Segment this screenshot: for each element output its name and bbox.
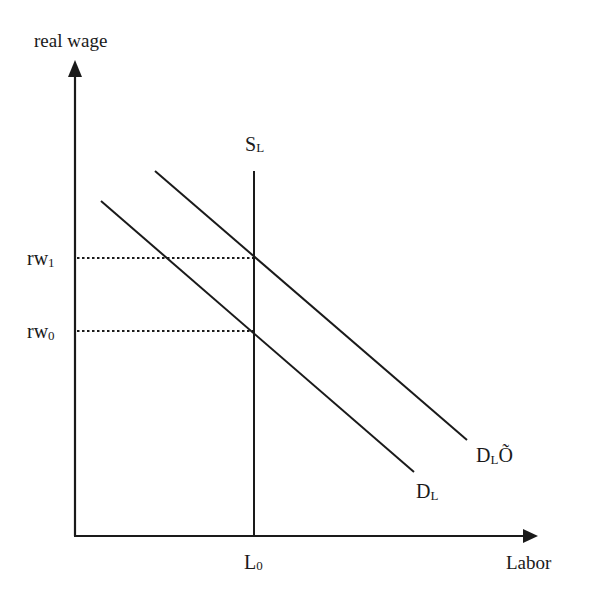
x-axis-label: Labor (506, 552, 552, 573)
demand-curve-DL-prime (155, 171, 467, 440)
y-axis-label: real wage (34, 30, 107, 51)
supply-label: SL (245, 133, 264, 155)
rw1-label: rw1 (27, 247, 55, 270)
demand-curve-DL (101, 201, 414, 472)
y-axis-arrowhead (68, 60, 82, 77)
demand-label: DL (416, 480, 438, 503)
L0-label: L0 (244, 551, 263, 573)
labor-market-diagram: real wage Labor SL DL DLÕ rw1 rw0 L0 (0, 0, 592, 594)
x-axis-arrowhead (523, 529, 538, 543)
rw0-label: rw0 (27, 320, 55, 343)
shifted-demand-label: DLÕ (476, 443, 513, 467)
